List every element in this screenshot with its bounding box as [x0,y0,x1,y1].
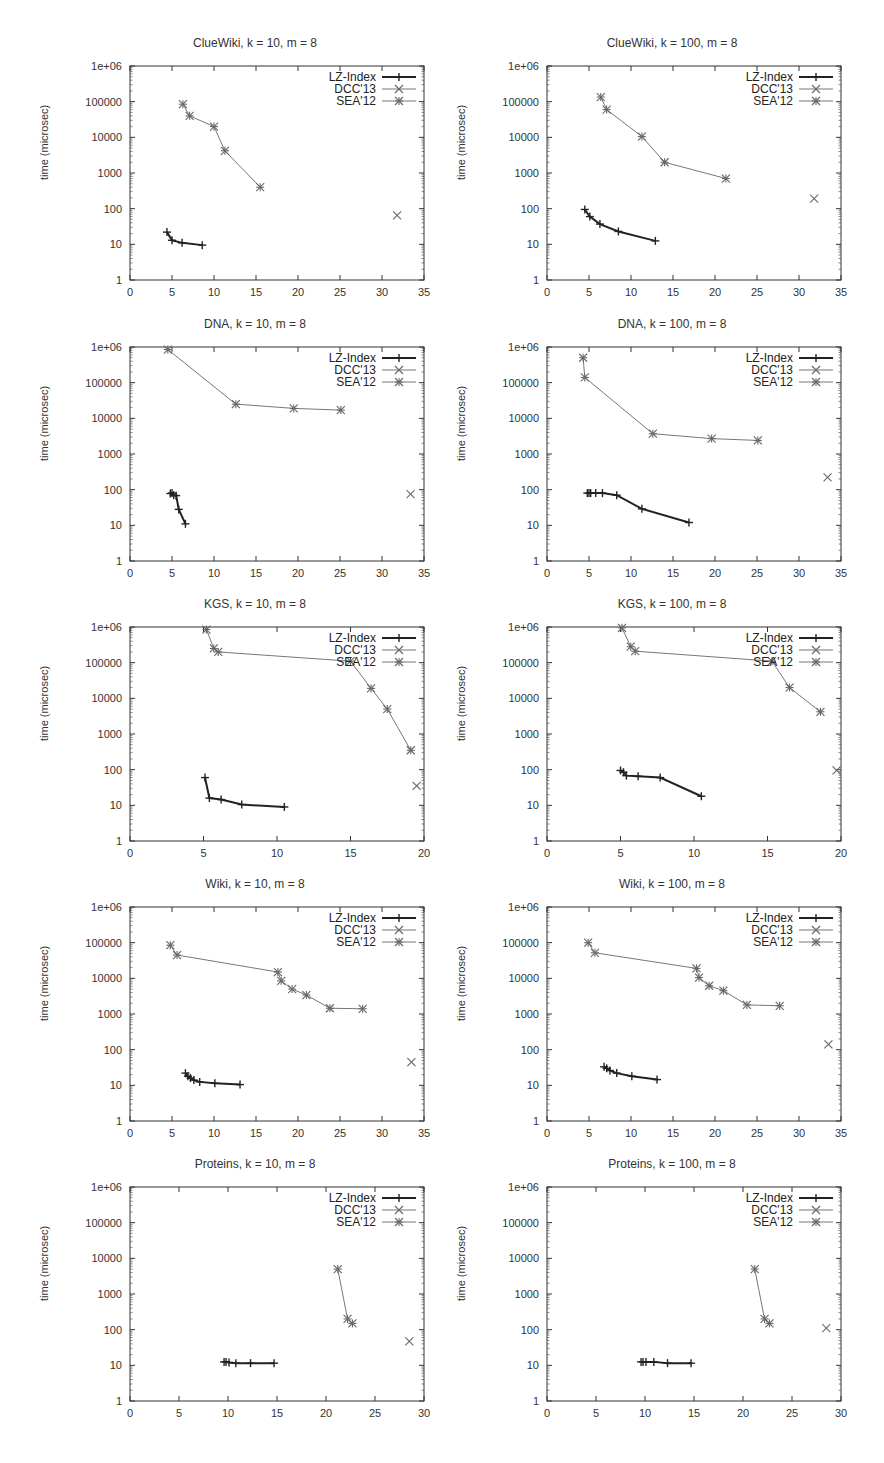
series-dcc-13 [407,490,415,498]
svg-text:35: 35 [835,1127,847,1139]
svg-text:1000: 1000 [515,728,539,740]
series-dcc-13 [824,1040,832,1048]
svg-text:15: 15 [761,847,773,859]
svg-text:SEA'12: SEA'12 [336,935,376,949]
plot-area: 1101001000100001000001e+06051015202530LZ… [40,1151,470,1431]
svg-text:20: 20 [709,286,721,298]
svg-text:10: 10 [625,1127,637,1139]
svg-text:10000: 10000 [508,972,539,984]
svg-text:10000: 10000 [508,1252,539,1264]
svg-text:100: 100 [104,764,122,776]
series-lz-index [583,489,693,526]
svg-text:10: 10 [639,1407,651,1419]
svg-text:1: 1 [116,835,122,847]
series-sea-12 [584,939,784,1010]
svg-text:25: 25 [369,1407,381,1419]
series-lz-index [163,228,206,249]
svg-text:1000: 1000 [515,1288,539,1300]
svg-text:1e+06: 1e+06 [91,341,122,353]
svg-text:10: 10 [208,567,220,579]
legend: LZ-IndexDCC'13SEA'12 [329,351,416,389]
svg-text:10: 10 [208,1127,220,1139]
legend: LZ-IndexDCC'13SEA'12 [746,631,833,669]
svg-text:100: 100 [521,1044,539,1056]
svg-text:0: 0 [544,567,550,579]
legend: LZ-IndexDCC'13SEA'12 [329,1191,416,1229]
plot-area: 1101001000100001000001e+0605101520253035… [457,871,884,1151]
legend: LZ-IndexDCC'13SEA'12 [746,1191,833,1229]
svg-text:10: 10 [527,238,539,250]
chart-cluewiki-k100: ClueWiki, k = 100, m = 8 time (microsec)… [457,30,884,310]
svg-text:1000: 1000 [515,167,539,179]
series-lz-index [201,774,288,811]
svg-text:1: 1 [533,555,539,567]
svg-text:10000: 10000 [91,1252,122,1264]
svg-text:25: 25 [334,286,346,298]
svg-text:10: 10 [527,1079,539,1091]
chart-dna-k10: DNA, k = 10, m = 8 time (microsec) 11010… [40,311,470,591]
svg-text:30: 30 [793,1127,805,1139]
chart-cluewiki-k10: ClueWiki, k = 10, m = 8 time (microsec) … [40,30,470,310]
svg-text:1000: 1000 [98,1008,122,1020]
svg-text:1e+06: 1e+06 [508,341,539,353]
svg-text:10000: 10000 [508,412,539,424]
svg-text:100000: 100000 [85,937,122,949]
svg-text:30: 30 [376,1127,388,1139]
svg-text:10000: 10000 [508,131,539,143]
svg-text:SEA'12: SEA'12 [753,375,793,389]
svg-text:20: 20 [320,1407,332,1419]
svg-text:1000: 1000 [98,448,122,460]
svg-text:30: 30 [793,567,805,579]
svg-text:15: 15 [250,567,262,579]
svg-text:5: 5 [169,567,175,579]
series-sea-12 [164,346,345,415]
svg-text:1000: 1000 [515,1008,539,1020]
svg-text:SEA'12: SEA'12 [753,94,793,108]
svg-text:5: 5 [200,847,206,859]
plot-area: 1101001000100001000001e+0605101520253035… [40,30,470,310]
svg-text:25: 25 [334,1127,346,1139]
svg-text:SEA'12: SEA'12 [336,94,376,108]
svg-text:1: 1 [116,274,122,286]
svg-text:100: 100 [104,203,122,215]
svg-text:10000: 10000 [91,972,122,984]
series-dcc-13 [393,211,401,219]
svg-text:0: 0 [544,286,550,298]
svg-text:1: 1 [116,1115,122,1127]
series-dcc-13 [833,766,841,774]
svg-text:100000: 100000 [85,657,122,669]
plot-area: 1101001000100001000001e+0605101520253035… [457,30,884,310]
svg-text:100: 100 [521,1324,539,1336]
svg-text:1: 1 [533,274,539,286]
svg-text:15: 15 [667,286,679,298]
svg-text:10000: 10000 [508,692,539,704]
svg-text:SEA'12: SEA'12 [753,655,793,669]
svg-text:25: 25 [751,1127,763,1139]
svg-text:SEA'12: SEA'12 [753,935,793,949]
svg-text:SEA'12: SEA'12 [336,1215,376,1229]
svg-text:1000: 1000 [98,1288,122,1300]
series-lz-index [600,1063,661,1084]
svg-text:100: 100 [521,203,539,215]
svg-text:15: 15 [667,567,679,579]
legend: LZ-IndexDCC'13SEA'12 [329,911,416,949]
svg-text:1: 1 [533,1115,539,1127]
svg-text:35: 35 [835,567,847,579]
chart-proteins-k10: Proteins, k = 10, m = 8 time (microsec) … [40,1151,470,1431]
svg-text:10: 10 [110,1359,122,1371]
legend: LZ-IndexDCC'13SEA'12 [746,70,833,108]
svg-text:1e+06: 1e+06 [91,1181,122,1193]
plot-area: 1101001000100001000001e+0605101520253035… [40,311,470,591]
svg-text:0: 0 [127,1407,133,1419]
svg-text:100000: 100000 [502,937,539,949]
svg-text:100000: 100000 [85,1217,122,1229]
svg-text:15: 15 [250,286,262,298]
svg-text:SEA'12: SEA'12 [336,655,376,669]
svg-text:15: 15 [344,847,356,859]
svg-text:30: 30 [376,567,388,579]
svg-text:1000: 1000 [98,728,122,740]
plot-area: 1101001000100001000001e+06051015202530LZ… [457,1151,884,1431]
svg-text:100: 100 [104,1324,122,1336]
series-lz-index [581,205,660,244]
series-dcc-13 [824,473,832,481]
